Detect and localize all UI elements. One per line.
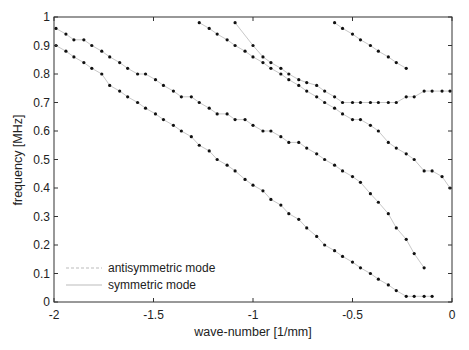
data-point: [395, 147, 398, 150]
data-point: [369, 44, 372, 47]
data-point: [279, 204, 282, 207]
data-point: [279, 67, 282, 70]
x-tick-label: 0: [449, 308, 456, 322]
data-point: [315, 95, 318, 98]
data-point: [431, 169, 434, 172]
data-point: [351, 101, 354, 104]
data-point: [233, 21, 236, 24]
data-point: [377, 50, 380, 53]
data-point: [341, 169, 344, 172]
data-point: [108, 84, 111, 87]
y-tick-label: 0.4: [33, 181, 50, 195]
x-tick-label: -1: [248, 308, 259, 322]
data-point: [440, 90, 443, 93]
data-point: [279, 135, 282, 138]
data-point: [323, 243, 326, 246]
data-point: [100, 72, 103, 75]
mode-curve: [235, 23, 450, 103]
data-point: [369, 124, 372, 127]
y-tick-label: 0.6: [33, 124, 50, 138]
data-point: [72, 38, 75, 41]
data-point: [287, 78, 290, 81]
data-point: [387, 283, 390, 286]
data-point: [423, 266, 426, 269]
data-point: [333, 107, 336, 110]
data-point: [208, 149, 211, 152]
data-point: [154, 112, 157, 115]
data-point: [251, 55, 254, 58]
data-point: [233, 44, 236, 47]
data-point: [90, 44, 93, 47]
y-tick-label: 0: [43, 295, 50, 309]
data-point: [341, 27, 344, 30]
data-point: [251, 124, 254, 127]
data-point: [172, 124, 175, 127]
data-point: [359, 101, 362, 104]
data-point: [216, 112, 219, 115]
legend-label-symmetric: symmetric mode: [108, 278, 196, 292]
data-point: [136, 72, 139, 75]
data-point: [233, 169, 236, 172]
x-tick-label: -2: [49, 308, 60, 322]
y-tick-label: 1: [43, 10, 50, 24]
y-tick-label: 0.7: [33, 96, 50, 110]
data-point: [279, 72, 282, 75]
data-point: [405, 67, 408, 70]
legend: antisymmetric mode symmetric mode: [66, 261, 216, 292]
data-point: [251, 184, 254, 187]
data-point: [261, 129, 264, 132]
data-point: [269, 67, 272, 70]
data-point: [297, 218, 300, 221]
model-curves: [56, 23, 450, 297]
data-point: [387, 141, 390, 144]
data-point: [261, 55, 264, 58]
data-point: [269, 61, 272, 64]
data-point: [377, 129, 380, 132]
data-point: [359, 266, 362, 269]
data-point: [54, 27, 57, 30]
data-point: [341, 101, 344, 104]
data-point: [243, 118, 246, 121]
data-point: [413, 95, 416, 98]
data-point: [323, 90, 326, 93]
data-point: [377, 278, 380, 281]
data-point: [64, 33, 67, 36]
data-point: [431, 90, 434, 93]
data-point: [315, 84, 318, 87]
data-point: [261, 189, 264, 192]
data-point: [305, 90, 308, 93]
data-point: [118, 61, 121, 64]
data-point: [413, 252, 416, 255]
data-point: [216, 33, 219, 36]
y-tick-label: 0.9: [33, 39, 50, 53]
mode-curve: [56, 28, 424, 267]
data-point: [180, 129, 183, 132]
y-axis-ticks: 00.10.20.30.40.50.60.70.80.91: [33, 10, 452, 309]
y-tick-label: 0.5: [33, 153, 50, 167]
data-point: [405, 238, 408, 241]
data-point: [126, 67, 129, 70]
data-point: [82, 38, 85, 41]
data-point: [305, 147, 308, 150]
data-point: [341, 255, 344, 258]
data-point: [287, 212, 290, 215]
data-point: [405, 95, 408, 98]
data-point: [297, 141, 300, 144]
data-point: [369, 101, 372, 104]
data-point: [72, 55, 75, 58]
y-tick-label: 0.2: [33, 238, 50, 252]
data-point: [440, 175, 443, 178]
data-point: [287, 141, 290, 144]
data-point: [261, 61, 264, 64]
data-point: [208, 107, 211, 110]
data-point: [359, 118, 362, 121]
data-point: [333, 21, 336, 24]
data-point: [333, 164, 336, 167]
data-point: [387, 212, 390, 215]
data-point: [297, 84, 300, 87]
data-point: [351, 261, 354, 264]
data-point: [359, 181, 362, 184]
data-point: [431, 295, 434, 298]
data-point: [359, 38, 362, 41]
data-point: [126, 95, 129, 98]
